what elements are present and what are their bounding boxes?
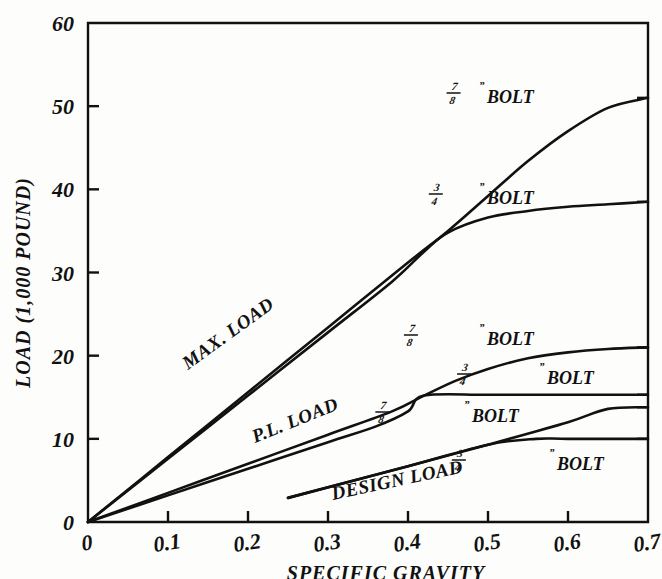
inch-mark: ” — [479, 321, 485, 333]
y-axis-tick-label: 40 — [51, 177, 74, 202]
series-label-max-load: MAX. LOAD — [177, 293, 278, 374]
series-label-pl-load: P.L. LOAD — [248, 393, 341, 447]
bolt-text: BOLT — [471, 406, 520, 426]
y-axis-title: LOAD (1,000 POUND) — [12, 177, 35, 389]
inch-mark: ” — [479, 79, 485, 91]
bolt-text: BOLT — [546, 368, 595, 388]
inch-mark: ” — [464, 398, 470, 410]
bolt-label-max-78: 78”BOLT — [447, 79, 535, 107]
x-axis-tick-label: 0 — [80, 529, 94, 555]
fraction-numerator: 7 — [408, 322, 416, 334]
fraction-denominator: 4 — [430, 195, 439, 207]
inch-mark: ” — [479, 180, 485, 192]
inch-mark: ” — [539, 360, 545, 372]
inch-mark: ” — [549, 446, 555, 458]
bolt-label-design-34: 34”BOLT — [452, 446, 605, 474]
bolt-text: BOLT — [556, 454, 605, 474]
bolt-label-pl-78: 78”BOLT — [404, 321, 535, 349]
bolt-label-pl-34: 34”BOLT — [457, 360, 595, 388]
y-axis-tick-label: 30 — [51, 261, 74, 286]
chart-axes: 010203040506000.10.20.30.40.50.60.7 — [51, 11, 662, 557]
x-axis-tick-label: 0.2 — [232, 528, 263, 557]
plot-frame — [88, 23, 648, 522]
fraction-numerator: 7 — [380, 399, 388, 411]
chart-svg: 010203040506000.10.20.30.40.50.60.7 78”B… — [0, 0, 662, 579]
fraction-numerator: 3 — [460, 361, 469, 373]
series-label-design-load: DESIGN LOAD — [328, 456, 464, 505]
bolt-text: BOLT — [486, 329, 535, 349]
fraction-denominator: 8 — [406, 336, 414, 348]
x-axis-tick-label: 0.4 — [392, 528, 423, 557]
y-axis-tick-label: 0 — [63, 510, 74, 535]
x-axis-tick-label: 0.7 — [632, 528, 662, 557]
y-axis-tick-label: 60 — [52, 11, 74, 36]
x-axis-tick-label: 0.1 — [152, 528, 183, 557]
x-axis-tick-label: 0.3 — [312, 528, 343, 557]
x-axis-title: SPECIFIC GRAVITY — [287, 562, 486, 579]
bolt-label-max-34: 34”BOLT — [429, 180, 535, 208]
x-axis-tick-label: 0.6 — [552, 528, 583, 557]
bolt-text: BOLT — [486, 188, 535, 208]
y-axis-tick-label: 10 — [52, 427, 74, 452]
y-axis-tick-label: 50 — [52, 94, 74, 119]
chart-figure: 010203040506000.10.20.30.40.50.60.7 78”B… — [0, 0, 662, 579]
fraction-denominator: 4 — [458, 375, 467, 387]
bolt-text: BOLT — [486, 87, 535, 107]
fraction-numerator: 7 — [451, 80, 459, 92]
bolt-label-design-78: 78”BOLT — [375, 398, 519, 426]
x-axis-tick-label: 0.5 — [472, 528, 503, 557]
fraction-numerator: 3 — [432, 181, 441, 193]
fraction-denominator: 8 — [449, 94, 457, 106]
chart-annotations: 78”BOLT34”BOLT78”BOLT34”BOLT78”BOLT34”BO… — [177, 79, 604, 504]
y-axis-tick-label: 20 — [51, 344, 74, 369]
